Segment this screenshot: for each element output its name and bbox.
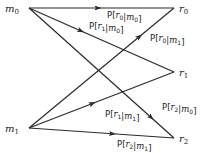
node-r2: r2 xyxy=(179,133,188,146)
edge-label-r2-given-m0: P[r2|m0] xyxy=(162,102,196,116)
arrowhead-icon xyxy=(77,27,86,35)
arrowhead-icon xyxy=(88,100,96,107)
node-r1: r1 xyxy=(179,67,188,80)
edge-label-r0-given-m0: P[r0|m0] xyxy=(107,10,141,24)
node-m0: m0 xyxy=(5,3,19,16)
channel-diagram: m0m1r0r1r2 P[r0|m0]P[r1|m0]P[r2|m0]P[r0|… xyxy=(0,0,202,153)
edge-label-r2-given-m1: P[r2|m1] xyxy=(117,139,151,153)
edge-label-r1-given-m0: P[r1|m0] xyxy=(89,21,123,35)
edge-m1-r1 xyxy=(29,72,174,128)
edge-label-r1-given-m1: P[r1|m1] xyxy=(105,109,139,123)
edge-m1-r2 xyxy=(29,128,174,138)
node-r0: r0 xyxy=(179,3,188,16)
node-m1: m1 xyxy=(5,123,19,136)
edge-label-r0-given-m1: P[r0|m1] xyxy=(150,33,184,47)
